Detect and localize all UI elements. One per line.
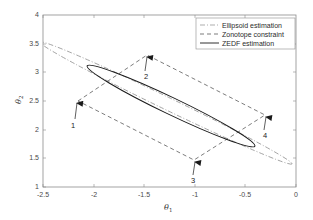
y-tick-label: 3 — [35, 68, 39, 75]
x-axis-label: θ 1 — [164, 203, 173, 213]
legend: Ellipsoid estimation Zonotope constraint… — [196, 18, 295, 49]
chart: -2.5 -2 -1.5 -1 -0.5 0 1 1.5 2 2.5 3 3.5… — [0, 0, 313, 220]
annotation-label: 2 — [144, 72, 148, 81]
annotation-label: 1 — [71, 121, 75, 130]
x-tick-label: 0 — [294, 191, 298, 198]
y-tick-label: 4 — [35, 11, 39, 18]
x-tick-label: -2.5 — [37, 191, 49, 198]
x-tick-label: -1 — [192, 191, 198, 198]
y-tick-label: 1 — [35, 183, 39, 190]
y-tick-label: 2 — [35, 126, 39, 133]
legend-item-zonotope: Zonotope constraint — [222, 31, 284, 39]
x-tick-label: -1.5 — [138, 191, 150, 198]
x-tick-label: -0.5 — [239, 191, 251, 198]
y-axis-label-sub: 2 — [18, 96, 24, 100]
y-tick-label: 3.5 — [29, 40, 39, 47]
legend-item-zedf: ZEDF estimation — [222, 40, 274, 47]
y-tick-label: 2.5 — [29, 97, 39, 104]
y-tick-label: 1.5 — [29, 154, 39, 161]
annotation-label: 3 — [191, 176, 195, 185]
x-tick-label: -2 — [91, 191, 97, 198]
x-tick-labels: -2.5 -2 -1.5 -1 -0.5 0 — [37, 191, 298, 198]
x-axis-label-sub: 1 — [169, 207, 173, 213]
y-tick-labels: 1 1.5 2 2.5 3 3.5 4 — [29, 11, 39, 190]
annotation-label: 4 — [263, 131, 267, 140]
y-axis-label: θ 2 — [14, 96, 24, 105]
legend-item-ellipsoid: Ellipsoid estimation — [222, 22, 282, 30]
